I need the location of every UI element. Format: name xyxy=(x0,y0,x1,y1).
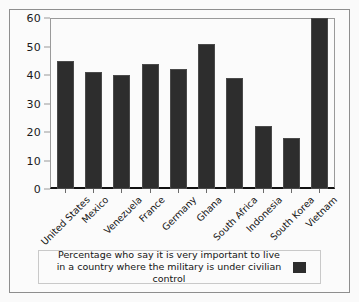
bar-slot xyxy=(164,18,192,189)
bar-slot xyxy=(221,18,249,189)
x-axis-label-slot: South Korea xyxy=(277,192,305,244)
x-axis-label-slot: Venezuela xyxy=(108,192,136,244)
y-axis: 0102030405060 xyxy=(0,18,50,189)
legend-color-swatch xyxy=(293,262,306,273)
x-axis-label: Vietnam xyxy=(303,194,339,230)
bar-slot xyxy=(136,18,164,189)
bar-series xyxy=(51,18,334,189)
bar xyxy=(255,126,272,189)
x-axis-label-slot: Germany xyxy=(164,192,192,244)
bar-slot xyxy=(51,18,79,189)
y-axis-tick-label: 0 xyxy=(34,183,41,196)
y-axis-tick-label: 20 xyxy=(27,126,41,139)
bar-slot xyxy=(277,18,305,189)
bar-slot xyxy=(249,18,277,189)
bar xyxy=(198,44,215,189)
x-axis-label-slot: South Africa xyxy=(221,192,249,244)
y-axis-tick-label: 10 xyxy=(27,154,41,167)
x-axis-label-slot: Mexico xyxy=(79,192,107,244)
y-axis-tick-label: 60 xyxy=(27,12,41,25)
chart-figure: 0102030405060 United StatesMexicoVenezue… xyxy=(0,0,359,302)
chart-legend: Percentage who say it is very important … xyxy=(38,250,321,284)
bar xyxy=(226,78,243,189)
bar-slot xyxy=(192,18,220,189)
y-axis-tick-label: 30 xyxy=(27,97,41,110)
bar xyxy=(113,75,130,189)
x-axis-label: France xyxy=(137,194,167,224)
bar xyxy=(142,64,159,189)
bar xyxy=(170,69,187,189)
x-axis-label: Ghana xyxy=(194,194,224,224)
bar xyxy=(57,61,74,189)
bar xyxy=(85,72,102,189)
x-axis-label-slot: United States xyxy=(51,192,79,244)
y-axis-tick-label: 40 xyxy=(27,69,41,82)
x-axis-label: Mexico xyxy=(80,194,111,225)
bar-slot xyxy=(79,18,107,189)
y-axis-tick-label: 50 xyxy=(27,40,41,53)
legend-label: Percentage who say it is very important … xyxy=(53,249,285,285)
bar xyxy=(311,18,328,189)
x-axis-labels: United StatesMexicoVenezuelaFranceGerman… xyxy=(51,192,334,244)
bar xyxy=(283,138,300,189)
bar-slot xyxy=(108,18,136,189)
bar-slot xyxy=(306,18,334,189)
x-axis-label-slot: Vietnam xyxy=(306,192,334,244)
x-axis-label-slot: France xyxy=(136,192,164,244)
